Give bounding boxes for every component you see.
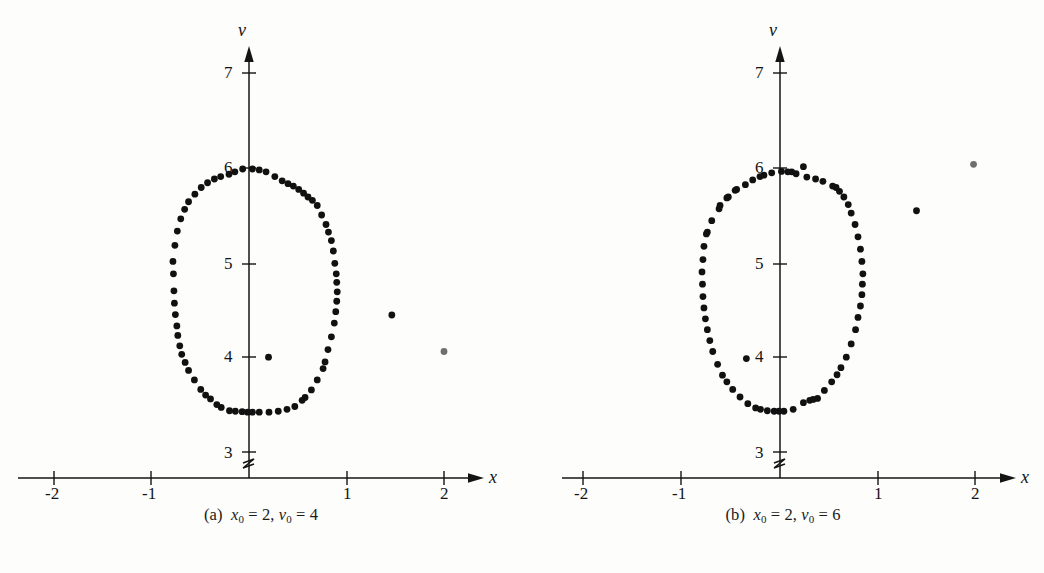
data-point [701, 305, 708, 312]
data-point [170, 270, 177, 277]
data-point [322, 359, 329, 366]
caption-x-sub: 0 [761, 513, 767, 525]
data-point [202, 392, 209, 399]
panel-b-points [699, 161, 977, 415]
y-tick-label-3: 3 [224, 443, 233, 463]
data-point [266, 409, 273, 416]
caption-index: (a) [204, 505, 223, 524]
data-point [331, 320, 338, 327]
data-point [328, 333, 335, 340]
data-point [699, 281, 706, 288]
data-point [714, 361, 721, 368]
data-point [737, 394, 744, 401]
data-point [263, 168, 270, 175]
data-point [828, 378, 835, 385]
data-point [173, 323, 180, 330]
x-tick-label--2: -2 [574, 484, 588, 504]
data-point [171, 300, 178, 307]
y-tick-label-6: 6 [224, 158, 233, 178]
data-point [709, 348, 716, 355]
data-point [334, 288, 341, 295]
data-point [333, 270, 340, 277]
data-point [857, 246, 864, 253]
data-point [757, 406, 764, 413]
y-tick-label-5: 5 [755, 254, 764, 274]
data-point [172, 242, 179, 249]
data-point [182, 359, 189, 366]
panel-a-caption: (a) x0 = 2, v0 = 4 [0, 505, 522, 525]
figure-container: v x -2 -1 1 2 3 4 5 6 7 (a) x0 = 2, v0 =… [0, 0, 1044, 573]
data-point [814, 395, 821, 402]
data-point [845, 201, 852, 208]
data-point [330, 248, 337, 255]
panel-b: v x -2 -1 1 2 3 4 5 6 7 (b) x0 = 2, v0 =… [522, 0, 1044, 573]
data-point [793, 170, 800, 177]
data-point [174, 332, 181, 339]
x-tick-label-2: 2 [971, 484, 980, 504]
data-point [764, 407, 771, 414]
data-point [333, 298, 340, 305]
data-point [700, 256, 707, 263]
data-point [170, 258, 177, 265]
x-tick-label--2: -2 [45, 484, 59, 504]
data-point [820, 178, 827, 185]
data-point [704, 326, 711, 333]
data-point [743, 355, 750, 362]
panel-a-axes [18, 46, 484, 485]
data-point [178, 351, 185, 358]
x-tick-label--1: -1 [142, 484, 156, 504]
axis-break-icon [774, 459, 785, 468]
data-point [703, 231, 710, 238]
panel-b-caption: (b) x0 = 2, v0 = 6 [522, 505, 1044, 525]
data-point [441, 348, 448, 355]
data-point [859, 270, 866, 277]
x-axis-arrowhead [1000, 473, 1016, 482]
data-point [314, 202, 321, 209]
data-point [314, 377, 321, 384]
panel-a: v x -2 -1 1 2 3 4 5 6 7 (a) x0 = 2, v0 =… [0, 0, 522, 573]
data-point [325, 229, 332, 236]
data-point [191, 377, 198, 384]
data-point [333, 279, 340, 286]
x-tick-label-1: 1 [343, 484, 352, 504]
data-point [232, 408, 239, 415]
caption-x-eq: = 2, [248, 505, 274, 524]
y-tick-label-4: 4 [224, 347, 233, 367]
data-point [265, 354, 272, 361]
data-point [198, 184, 205, 191]
y-tick-label-4: 4 [755, 347, 764, 367]
data-point [729, 386, 736, 393]
data-point [181, 206, 188, 213]
data-point [790, 406, 797, 413]
data-point [706, 337, 713, 344]
data-point [256, 409, 263, 416]
data-point [913, 207, 920, 214]
data-point [309, 197, 316, 204]
data-point [821, 387, 828, 394]
data-point [708, 217, 715, 224]
x-tick-label-1: 1 [874, 484, 883, 504]
data-point [332, 308, 339, 315]
data-point [781, 408, 788, 415]
data-point [271, 173, 278, 180]
data-point [191, 191, 198, 198]
data-point [177, 215, 184, 222]
data-point [700, 293, 707, 300]
data-point [185, 198, 192, 205]
y-axis-label: v [769, 20, 777, 41]
data-point [256, 167, 263, 174]
data-point [320, 365, 327, 372]
data-point [172, 311, 179, 318]
data-point [388, 312, 395, 319]
data-point [744, 400, 751, 407]
caption-x-var: x [754, 505, 761, 524]
data-point [970, 161, 977, 168]
data-point [204, 179, 211, 186]
y-tick-label-7: 7 [224, 63, 233, 83]
data-point [800, 399, 807, 406]
data-point [328, 237, 335, 244]
data-point [176, 342, 183, 349]
data-point [852, 221, 859, 228]
x-tick-label--1: -1 [672, 484, 686, 504]
y-tick-label-6: 6 [755, 158, 764, 178]
